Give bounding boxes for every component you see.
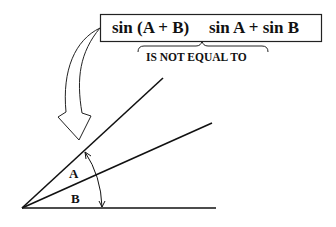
equation-box: sin (A + B) sin A + sin B — [101, 15, 322, 42]
angle-rays — [22, 78, 216, 208]
middle-ray — [22, 123, 212, 208]
angle-arc — [85, 152, 105, 207]
angle-sum-diagram: sin (A + B) sin A + sin B IS NOT EQUAL T… — [0, 0, 336, 227]
angle-label-b: B — [71, 191, 80, 206]
brace-note: IS NOT EQUAL TO — [146, 51, 247, 63]
right-expression: sin A + sin B — [209, 18, 299, 37]
left-expression: sin (A + B) — [112, 18, 189, 37]
upper-ray — [22, 78, 163, 208]
curved-arrow-icon — [58, 28, 100, 140]
angle-label-a: A — [69, 166, 79, 181]
